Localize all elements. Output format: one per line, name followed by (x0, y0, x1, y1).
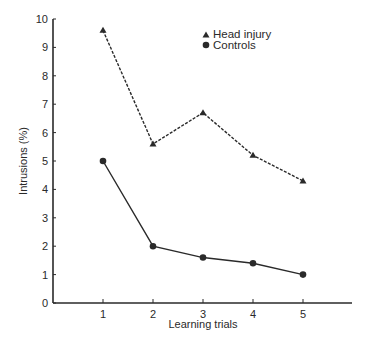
y-tick-label: 1 (42, 269, 48, 281)
y-tick-label: 2 (42, 240, 48, 252)
x-axis-title: Learning trials (168, 318, 238, 330)
y-tick-label: 6 (42, 127, 48, 139)
series-layer (100, 27, 307, 278)
y-axis: 012345678910 (36, 13, 56, 309)
triangle-marker-icon (150, 140, 157, 146)
series-line (103, 30, 303, 181)
y-tick-label: 10 (36, 13, 48, 25)
legend: Head injury Controls (203, 28, 272, 51)
triangle-marker-icon (203, 32, 210, 38)
series-controls (100, 158, 307, 278)
triangle-marker-icon (200, 109, 207, 115)
legend-item-controls: Controls (203, 39, 256, 51)
circle-marker-icon (150, 243, 157, 250)
line-chart: 012345678910 12345 Intrusions (%) Learni… (0, 0, 368, 342)
legend-label-controls: Controls (213, 39, 256, 51)
x-tick-label: 1 (100, 308, 106, 320)
series-head-injury (100, 27, 307, 184)
circle-marker-icon (100, 158, 107, 165)
y-axis-title: Intrusions (%) (17, 127, 29, 195)
x-tick-label: 4 (250, 308, 256, 320)
y-tick-label: 0 (42, 297, 48, 309)
x-tick-label: 2 (150, 308, 156, 320)
circle-marker-icon (200, 254, 207, 261)
y-tick-label: 5 (42, 155, 48, 167)
x-tick-label: 5 (300, 308, 306, 320)
y-tick-label: 4 (42, 183, 48, 195)
y-tick-label: 7 (42, 98, 48, 110)
circle-marker-icon (203, 42, 210, 49)
y-tick-label: 3 (42, 212, 48, 224)
circle-marker-icon (300, 271, 307, 278)
triangle-marker-icon (100, 27, 107, 33)
circle-marker-icon (250, 260, 257, 267)
y-tick-label: 9 (42, 41, 48, 53)
y-tick-label: 8 (42, 70, 48, 82)
x-axis: 12345 (53, 299, 352, 320)
